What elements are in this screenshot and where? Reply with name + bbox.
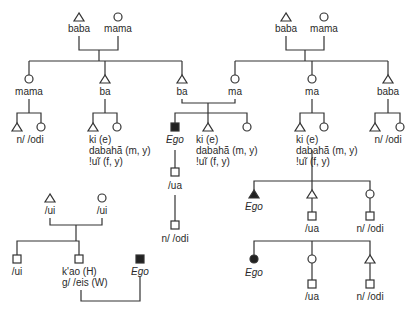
- label-uncle-left: ba: [99, 86, 110, 97]
- label-grandfather-left: baba: [68, 23, 90, 34]
- label-namesake-mother: /ui: [97, 205, 108, 216]
- label-grandchild: n/ /odi: [161, 233, 188, 244]
- label-aunt-left: mama: [15, 86, 43, 97]
- label-ego-bottom-left: Ego: [131, 266, 149, 277]
- label-uncle-right: baba: [377, 86, 399, 97]
- label-grandmother-left: mama: [104, 23, 132, 34]
- label-cross-cousins-left: n/ /odi: [16, 134, 43, 145]
- label-brother-child-bottom: n/ /odi: [356, 291, 383, 302]
- sibling-terms: ki (e) dabahã (m, y) !uĩ (f, y): [196, 134, 258, 167]
- label-namesake-child: /ui: [12, 266, 23, 277]
- label-namesake-father: /ui: [45, 205, 56, 216]
- label-father: ba: [176, 86, 187, 97]
- label-sister-child-bottom: /ua: [305, 291, 319, 302]
- label-grandmother-right: mama: [310, 23, 338, 34]
- label-sister-child: n/ /odi: [356, 223, 383, 234]
- parallel-cousin-terms-left: ki (e) dabahã (m, y) !uĩ (f, y): [89, 134, 151, 167]
- circle-female-icon: [114, 13, 122, 21]
- label-cross-cousins-right: n/ /odi: [374, 134, 401, 145]
- label-grandfather-right: baba: [275, 23, 297, 34]
- label-brother-child: /ua: [305, 223, 319, 234]
- label-aunt-right: ma: [305, 86, 319, 97]
- triangle-male-icon: [74, 13, 84, 21]
- label-ego-center: Ego: [166, 134, 184, 145]
- label-mother: ma: [228, 86, 242, 97]
- label-ego-female: Ego: [245, 267, 263, 278]
- label-child: /ua: [168, 180, 182, 191]
- parallel-cousin-terms-right: ki (e) dabahã (m, y) !uĩ (f, y): [296, 134, 358, 167]
- label-ego-male: Ego: [245, 201, 263, 212]
- spouse-terms: k'ao (H) g/ /eis (W): [62, 266, 108, 288]
